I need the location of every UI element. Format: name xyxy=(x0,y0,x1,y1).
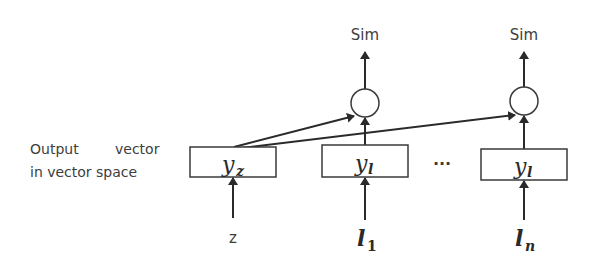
similarity-node-2 xyxy=(510,87,538,115)
input-label-l1: l 1 xyxy=(357,225,377,254)
box-sub-yl-n: l xyxy=(527,164,532,180)
side-label-word-output: Output xyxy=(30,141,79,157)
vector-box-yl-n: y l xyxy=(481,149,567,180)
similarity-diagram: Output vector in vector space Sim Sim y … xyxy=(0,0,603,264)
input-var-ln: l xyxy=(515,225,523,251)
box-sub-yz: z xyxy=(235,163,245,179)
input-var-l1: l xyxy=(357,225,365,251)
input-sub-l1: 1 xyxy=(367,238,377,254)
input-label-z: z xyxy=(229,229,237,247)
vector-box-yz: y z xyxy=(190,147,276,179)
side-label: Output vector in vector space xyxy=(30,141,160,180)
input-sub-ln: n xyxy=(525,238,535,254)
box-var-yl-1: y xyxy=(354,151,368,176)
arrow-yz-to-circle2 xyxy=(234,115,515,149)
vector-box-yl-1: y l xyxy=(322,145,408,177)
input-label-ln: l n xyxy=(515,225,535,254)
box-var-yl-n: y xyxy=(513,154,527,179)
side-label-line2: in vector space xyxy=(30,164,137,180)
similarity-node-1 xyxy=(351,89,379,117)
box-sub-yl-1: l xyxy=(368,161,373,177)
box-var-yz: y xyxy=(221,152,235,177)
ellipsis: ... xyxy=(433,150,451,169)
side-label-word-vector: vector xyxy=(115,141,160,157)
sim-label-1: Sim xyxy=(351,26,379,44)
sim-label-2: Sim xyxy=(510,26,538,44)
